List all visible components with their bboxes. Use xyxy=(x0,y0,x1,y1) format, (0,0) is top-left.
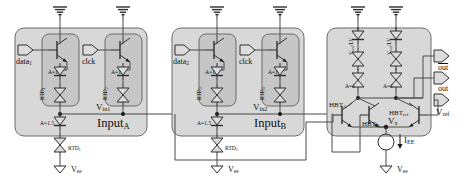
vee-driver-label: Vee xyxy=(397,166,408,175)
vee-symbol-b xyxy=(211,166,223,173)
schematic-figure: .wire { stroke: #4a4a4a; stroke-width: 1… xyxy=(0,0,464,182)
rtd-a-right-label: RTD2 xyxy=(103,87,110,100)
vee-symbol-driver xyxy=(380,166,392,173)
vee-a-label: Vee xyxy=(71,166,82,175)
vref-label: Vref xyxy=(436,108,449,117)
hbt-b-label: HBTB xyxy=(362,121,379,129)
area-a-right-label: A=1 xyxy=(111,70,121,76)
input-b-block-label: InputB xyxy=(254,117,286,130)
rtd-b-bottom-label: RTD2 xyxy=(225,146,238,153)
vcc-symbol-a-right xyxy=(116,7,130,19)
rtd-b-right-label: RTD4 xyxy=(260,87,267,100)
out-bar-label: out xyxy=(438,63,448,72)
driver-area-left-label: A=1 xyxy=(345,84,355,90)
data1-port-label: data1 xyxy=(16,58,32,67)
rtd-b-bottom-lower xyxy=(211,134,223,156)
out-buffer xyxy=(434,72,449,84)
circuit-schematic-canvas: .wire { stroke: #4a4a4a; stroke-width: 1… xyxy=(0,0,464,182)
vin1-label: Vin1 xyxy=(96,103,110,112)
vcc-symbol-d-right xyxy=(389,7,403,19)
out-bar-buffer xyxy=(434,50,449,62)
data2-port-label: data2 xyxy=(173,58,189,67)
driver-right-stack-label: Vout/LV xyxy=(387,38,394,55)
area-a-bottom-label: A=1.5 xyxy=(40,121,54,127)
vcc-symbol-b-left xyxy=(210,7,224,19)
vcc-symbol-a-left xyxy=(53,7,67,19)
area-a-left-label: A=1 xyxy=(48,70,58,76)
vcc-symbol-d-left xyxy=(351,7,365,19)
driver-left-stack-label: Vout/LV xyxy=(349,38,356,55)
rtd-a-bottom-lower xyxy=(54,134,66,156)
area-b-bottom-label: A=1.5 xyxy=(197,121,211,127)
hbt-a-label: HBTA xyxy=(329,102,346,110)
vee-b-label: Vee xyxy=(228,166,239,175)
area-b-right-label: A=1 xyxy=(268,70,278,76)
iee-label: IEE xyxy=(404,136,414,145)
vee-symbol-a xyxy=(54,166,66,173)
vx-label: Vx xyxy=(388,117,398,126)
vcc-symbol-b-right xyxy=(273,7,287,19)
rtd-a-left-label: RTD1 xyxy=(40,87,47,100)
driver-area-right-label: A=1 xyxy=(383,84,393,90)
out-label: out xyxy=(438,85,448,93)
clck-b-port-label: clck xyxy=(239,58,252,66)
rtd-b-left-label: RTD3 xyxy=(197,87,204,100)
area-b-left-label: A=1 xyxy=(205,70,215,76)
clck-a-port-label: clck xyxy=(82,58,95,66)
input-a-block-label: InputA xyxy=(97,117,130,130)
rtd-a-bottom-label: RTD1 xyxy=(68,146,81,153)
vin2-label: Vin2 xyxy=(253,103,267,112)
